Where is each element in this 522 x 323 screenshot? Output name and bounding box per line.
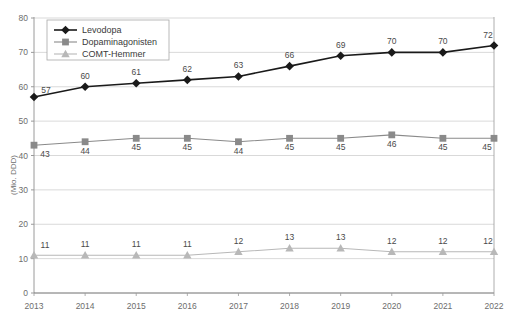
legend-label: Levodopa <box>82 25 122 35</box>
x-tick-label: 2018 <box>280 301 299 311</box>
data-point-label: 11 <box>183 239 192 249</box>
y-axis-title: (Mio. DDD) <box>9 155 18 195</box>
data-point-label: 69 <box>336 40 346 50</box>
data-point-marker <box>31 142 38 149</box>
data-point-marker <box>30 93 39 102</box>
series-layer <box>30 41 499 258</box>
data-point-marker <box>285 62 294 71</box>
data-point-marker <box>183 76 192 85</box>
data-point-marker <box>337 135 344 142</box>
data-point-marker <box>234 72 243 81</box>
footnote-text <box>6 316 516 323</box>
data-point-label: 45 <box>336 142 346 152</box>
chart-legend: LevodopaDopaminagonistenCOMT-Hemmer <box>47 20 169 60</box>
y-tick-label: 60 <box>19 82 29 92</box>
y-tick-label: 40 <box>19 151 29 161</box>
x-tick-label: 2019 <box>331 301 350 311</box>
data-point-marker <box>286 135 293 142</box>
data-point-marker <box>184 135 191 142</box>
data-point-label: 57 <box>41 85 51 95</box>
x-tick-label: 2016 <box>178 301 197 311</box>
data-point-label: 72 <box>483 30 493 40</box>
x-tick-label: 2013 <box>25 301 44 311</box>
x-tick-label: 2020 <box>382 301 401 311</box>
data-point-marker <box>439 48 448 57</box>
data-point-marker <box>82 138 89 145</box>
data-point-label: 44 <box>80 146 90 156</box>
data-point-marker <box>387 48 396 57</box>
y-tick-label: 50 <box>19 116 29 126</box>
legend-label: Dopaminagonisten <box>82 37 157 47</box>
data-point-label: 70 <box>387 36 397 46</box>
x-tick-label: 2021 <box>433 301 452 311</box>
data-point-marker <box>439 135 446 142</box>
data-point-label: 60 <box>80 71 90 81</box>
data-point-label: 11 <box>132 239 141 249</box>
data-point-label: 43 <box>40 149 50 159</box>
data-point-label: 63 <box>234 60 244 70</box>
data-point-label: 62 <box>183 64 193 74</box>
data-point-label: 13 <box>336 232 346 242</box>
data-point-label: 11 <box>41 240 50 250</box>
data-point-label: 45 <box>438 142 448 152</box>
data-point-label: 45 <box>482 142 492 152</box>
data-point-marker <box>490 41 499 50</box>
data-point-label: 61 <box>131 67 141 77</box>
data-point-marker <box>81 82 90 91</box>
x-tick-label: 2015 <box>127 301 146 311</box>
data-point-label: 45 <box>131 142 141 152</box>
y-tick-label: 10 <box>19 254 29 264</box>
data-point-marker <box>336 52 345 61</box>
data-point-marker <box>133 135 140 142</box>
legend-marker <box>62 39 69 46</box>
chart-container: 01020304050607080 2013201420152016201720… <box>0 0 522 323</box>
series-comt-hemmer <box>30 244 498 258</box>
legend-label: COMT-Hemmer <box>82 49 146 59</box>
data-point-label: 70 <box>438 36 448 46</box>
data-point-label: 12 <box>438 236 448 246</box>
data-point-label: 13 <box>285 232 295 242</box>
line-chart: 01020304050607080 2013201420152016201720… <box>0 0 522 312</box>
data-point-label: 44 <box>234 146 244 156</box>
x-tick-label: 2017 <box>229 301 248 311</box>
y-tick-label: 70 <box>19 47 29 57</box>
x-tick-label: 2014 <box>76 301 95 311</box>
data-point-label: 12 <box>234 236 244 246</box>
data-point-label: 12 <box>387 236 397 246</box>
data-point-label: 66 <box>285 50 295 60</box>
data-point-label: 46 <box>387 139 397 149</box>
y-tick-label: 20 <box>19 219 29 229</box>
y-tick-label: 0 <box>23 288 28 298</box>
y-tick-label: 30 <box>19 185 29 195</box>
series-dopaminagonisten <box>31 131 498 148</box>
data-point-label: 11 <box>81 239 90 249</box>
data-point-marker <box>235 138 242 145</box>
data-point-marker <box>388 131 395 138</box>
data-point-label: 12 <box>483 236 493 246</box>
data-point-marker <box>491 135 498 142</box>
data-point-marker <box>132 79 141 88</box>
x-axis-tick-labels: 2013201420152016201720182019202020212022 <box>25 293 504 311</box>
data-point-label: 45 <box>285 142 295 152</box>
y-tick-label: 80 <box>19 13 29 23</box>
x-tick-label: 2022 <box>485 301 504 311</box>
data-point-label: 45 <box>183 142 193 152</box>
